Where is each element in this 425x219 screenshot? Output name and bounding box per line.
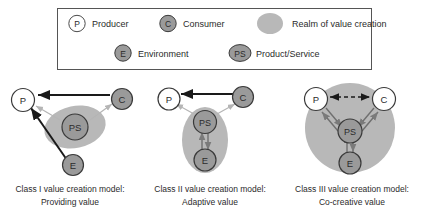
- legend-label-environment: Environment: [138, 49, 189, 59]
- node-p-label-class-2: P: [166, 94, 172, 105]
- legend-label-realm: Realm of value creation: [292, 19, 387, 29]
- node-ps-label-class-3: PS: [344, 127, 356, 137]
- legend: P Producer C Consumer Realm of value cre…: [58, 9, 387, 70]
- realm-icon: [257, 13, 283, 34]
- legend-border: [58, 9, 372, 70]
- legend-label-producer: Producer: [92, 19, 129, 29]
- legend-label-consumer: Consumer: [183, 19, 225, 29]
- node-c-class-1: C: [112, 89, 133, 110]
- node-e-class-2: E: [194, 149, 216, 171]
- node-p-class-1: P: [12, 89, 35, 112]
- caption-class-2-line2: Adaptive value: [182, 197, 238, 207]
- node-p-class-2: P: [158, 88, 180, 110]
- node-p-class-3: P: [305, 88, 328, 111]
- environment-icon-symbol: E: [120, 49, 126, 59]
- node-ps-label-class-2: PS: [199, 118, 211, 128]
- product-service-icon-symbol: PS: [234, 49, 246, 59]
- consumer-icon-symbol: C: [165, 19, 171, 29]
- figure-root: P Producer C Consumer Realm of value cre…: [0, 0, 425, 219]
- node-e-class-1: E: [63, 155, 84, 176]
- node-c-label-class-3: C: [381, 94, 388, 105]
- node-p-label-class-1: P: [20, 95, 26, 106]
- node-ps-class-2: PS: [194, 111, 217, 134]
- node-e-label-class-2: E: [202, 155, 208, 166]
- caption-class-1-line1: Class I value creation model:: [15, 184, 124, 194]
- node-e-label-class-3: E: [347, 158, 353, 169]
- caption-class-1-line2: Providing value: [41, 197, 99, 207]
- legend-label-product-service: Product/Service: [256, 49, 320, 59]
- node-c-class-2: C: [233, 87, 254, 108]
- producer-icon-symbol: P: [74, 19, 80, 29]
- node-p-label-class-3: P: [313, 94, 319, 105]
- caption-class-3-line2: Co-creative value: [319, 197, 385, 207]
- node-c-class-3: C: [373, 88, 396, 111]
- node-c-label-class-1: C: [119, 94, 126, 105]
- node-ps-class-1: PS: [62, 114, 88, 140]
- caption-class-3-line1: Class III value creation model:: [295, 184, 409, 194]
- value-creation-models-figure: P Producer C Consumer Realm of value cre…: [0, 0, 425, 219]
- node-c-label-class-2: C: [240, 92, 247, 103]
- node-ps-label-class-1: PS: [69, 122, 82, 133]
- caption-class-2-line1: Class II value creation model:: [154, 184, 266, 194]
- node-e-class-3: E: [339, 152, 361, 174]
- node-e-label-class-1: E: [70, 160, 76, 171]
- node-ps-class-3: PS: [338, 119, 362, 143]
